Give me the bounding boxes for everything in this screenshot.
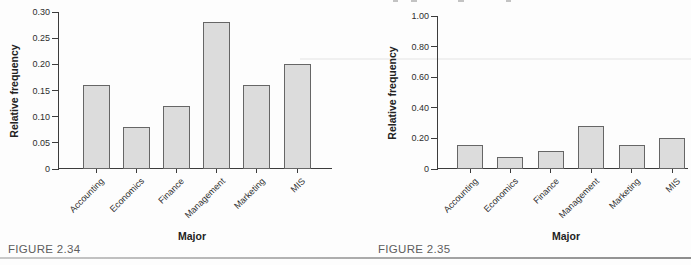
x-tick-label-economics: Economics	[108, 176, 146, 214]
bar-accounting	[457, 145, 483, 169]
x-tick-mark	[510, 169, 511, 173]
y-axis-line	[437, 16, 438, 170]
y-tick-label: 0.20	[16, 59, 50, 69]
y-tick-label: 0.25	[16, 33, 50, 43]
x-tick-mark	[216, 169, 217, 173]
y-tick-label: 0.80	[395, 42, 429, 52]
y-tick-mark	[52, 64, 58, 65]
bar-finance	[538, 151, 564, 169]
horizontal-divider	[0, 257, 691, 259]
x-tick-mark	[591, 169, 592, 173]
y-tick-label: 0.20	[395, 133, 429, 143]
x-tick-label-marketing: Marketing	[232, 176, 267, 211]
y-tick-mark	[52, 90, 58, 91]
y-tick-mark	[52, 142, 58, 143]
y-tick-mark	[52, 12, 58, 13]
bar-finance	[163, 106, 190, 169]
x-tick-mark	[470, 169, 471, 173]
y-tick-label: 0.10	[16, 112, 50, 122]
bar-mis	[659, 138, 685, 169]
bar-mis	[284, 64, 311, 169]
x-tick-label-mis: MIS	[664, 176, 682, 194]
bar-economics	[123, 127, 150, 169]
bar-marketing	[619, 145, 645, 169]
cropped-text-fragment	[411, 0, 417, 2]
y-tick-mark	[431, 46, 437, 47]
cropped-text-fragment	[506, 0, 511, 2]
x-tick-label-accounting: Accounting	[442, 176, 481, 215]
figure-caption: FIGURE 2.34	[8, 243, 80, 255]
y-tick-label: 0.05	[16, 138, 50, 148]
y-tick-label: 0.60	[395, 72, 429, 82]
y-tick-mark	[431, 16, 437, 17]
bar-management	[578, 126, 604, 169]
y-tick-label: 1.00	[395, 11, 429, 21]
plot-area-figure-2-35: 00.200.400.600.801.00AccountingEconomics…	[437, 16, 688, 169]
y-axis-title-wrap: Relative frequency	[382, 16, 402, 169]
x-tick-mark	[136, 169, 137, 173]
y-axis-title: Relative frequency	[386, 46, 398, 139]
y-tick-label: 0.30	[16, 7, 50, 17]
bar-management	[203, 22, 230, 169]
y-tick-label: 0	[16, 164, 50, 174]
x-tick-mark	[96, 169, 97, 173]
x-tick-label-finance: Finance	[157, 176, 187, 206]
x-tick-mark	[297, 169, 298, 173]
cropped-text-fragment	[458, 0, 464, 2]
y-tick-mark	[52, 38, 58, 39]
y-tick-label: 0.40	[395, 103, 429, 113]
y-tick-mark	[431, 107, 437, 108]
x-tick-mark	[256, 169, 257, 173]
plot-area-figure-2-34: 00.050.100.150.200.250.30AccountingEcono…	[58, 12, 332, 169]
y-tick-label: 0.15	[16, 86, 50, 96]
y-tick-mark	[431, 77, 437, 78]
x-tick-label-economics: Economics	[482, 176, 520, 214]
bar-marketing	[243, 85, 270, 169]
x-tick-mark	[672, 169, 673, 173]
x-tick-mark	[550, 169, 551, 173]
x-axis-title: Major	[552, 230, 580, 242]
bar-accounting	[83, 85, 110, 169]
x-tick-label-accounting: Accounting	[68, 176, 107, 215]
x-axis-title: Major	[178, 230, 206, 242]
y-tick-label: 0	[395, 164, 429, 174]
y-tick-mark	[52, 116, 58, 117]
y-tick-mark	[431, 169, 437, 170]
y-tick-mark	[52, 169, 58, 170]
y-tick-mark	[431, 138, 437, 139]
x-tick-mark	[176, 169, 177, 173]
cropped-text-fragment	[393, 0, 398, 2]
x-tick-label-marketing: Marketing	[607, 176, 642, 211]
bar-economics	[497, 157, 523, 169]
x-tick-label-management: Management	[182, 176, 226, 220]
x-tick-label-management: Management	[557, 176, 601, 220]
x-tick-mark	[631, 169, 632, 173]
figure-caption: FIGURE 2.35	[378, 243, 450, 255]
y-axis-line	[58, 12, 59, 170]
textbook-page-region: Relative frequency 00.050.100.150.200.25…	[0, 0, 691, 265]
x-tick-label-mis: MIS	[289, 176, 307, 194]
x-tick-label-finance: Finance	[531, 176, 561, 206]
